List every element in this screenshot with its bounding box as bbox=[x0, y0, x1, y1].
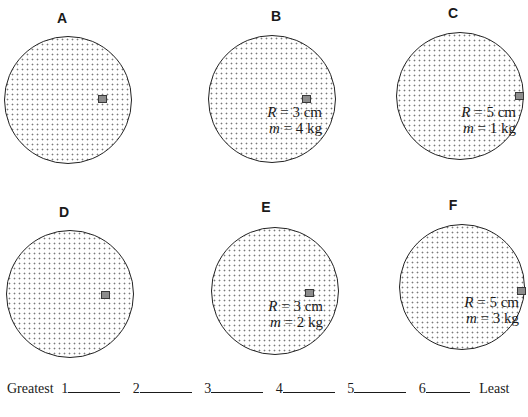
coin-square-icon bbox=[302, 95, 311, 103]
radius-value: = 3 cm bbox=[280, 104, 322, 120]
ranking-slot-6-number: 6 bbox=[419, 381, 426, 396]
ranking-slot-5-number: 5 bbox=[347, 381, 354, 396]
disk-f-parameters: R = 5 cmm = 3 kg bbox=[464, 294, 519, 326]
disk-b bbox=[208, 35, 336, 163]
ranking-slot-2-number: 2 bbox=[133, 381, 140, 396]
coin-square-icon bbox=[98, 95, 107, 103]
ranking-slot-6-blank[interactable] bbox=[426, 380, 470, 393]
mass-symbol: m bbox=[466, 310, 477, 326]
mass-line: m = 3 kg bbox=[464, 310, 519, 326]
disk-e-parameters: R = 3 cmm = 2 kg bbox=[268, 298, 323, 330]
radius-value: = 5 cm bbox=[477, 294, 519, 310]
coin-square-icon bbox=[515, 92, 524, 100]
panel-label-c: C bbox=[448, 6, 458, 20]
coin-square-icon bbox=[101, 291, 110, 299]
cut-off-caption: ... bbox=[150, 412, 167, 417]
mass-symbol: m bbox=[463, 120, 474, 136]
disk-a bbox=[4, 36, 132, 164]
ranking-slot-2-blank[interactable] bbox=[140, 380, 192, 393]
radius-line: R = 5 cm bbox=[464, 294, 519, 310]
ranking-slot-3-number: 3 bbox=[204, 381, 211, 396]
disk-c-parameters: R = 5 cmm = 1 kg bbox=[461, 104, 516, 136]
radius-line: R = 5 cm bbox=[461, 104, 516, 120]
mass-value: = 1 kg bbox=[478, 120, 516, 136]
disk-b-parameters: R = 3 cmm = 4 kg bbox=[267, 104, 322, 136]
ranking-slot-1-number: 1 bbox=[61, 381, 68, 396]
ranking-slot-4-number: 4 bbox=[276, 381, 283, 396]
panel-label-a: A bbox=[57, 11, 67, 25]
mass-line: m = 2 kg bbox=[268, 314, 323, 330]
radius-symbol: R bbox=[268, 298, 277, 314]
mass-value: = 3 kg bbox=[481, 310, 519, 326]
mass-value: = 2 kg bbox=[285, 314, 323, 330]
ranking-start-label: Greatest bbox=[7, 381, 54, 396]
ranking-slot-3-blank[interactable] bbox=[211, 380, 263, 393]
ranking-slot-4-blank[interactable] bbox=[283, 380, 335, 393]
ranking-slot-5-blank[interactable] bbox=[354, 380, 406, 393]
ranking-line: Greatest 1 2 3 4 5 6 Least bbox=[7, 380, 509, 397]
mass-symbol: m bbox=[270, 314, 281, 330]
radius-value: = 5 cm bbox=[474, 104, 516, 120]
mass-line: m = 1 kg bbox=[461, 120, 516, 136]
coin-square-icon bbox=[305, 289, 314, 297]
panel-label-f: F bbox=[449, 198, 458, 212]
panel-label-e: E bbox=[261, 200, 270, 214]
radius-symbol: R bbox=[464, 294, 473, 310]
disk-d bbox=[6, 230, 134, 358]
radius-symbol: R bbox=[267, 104, 276, 120]
radius-line: R = 3 cm bbox=[268, 298, 323, 314]
disk-c bbox=[396, 32, 524, 160]
ranking-slot-1-blank[interactable] bbox=[68, 380, 120, 393]
mass-line: m = 4 kg bbox=[267, 120, 322, 136]
disk-f bbox=[399, 224, 525, 350]
mass-value: = 4 kg bbox=[284, 120, 322, 136]
disk-e bbox=[211, 227, 339, 355]
radius-value: = 3 cm bbox=[281, 298, 323, 314]
panel-label-b: B bbox=[271, 9, 281, 23]
panel-label-d: D bbox=[59, 205, 69, 219]
radius-line: R = 3 cm bbox=[267, 104, 322, 120]
mass-symbol: m bbox=[269, 120, 280, 136]
ranking-end-label: Least bbox=[479, 381, 509, 396]
radius-symbol: R bbox=[461, 104, 470, 120]
